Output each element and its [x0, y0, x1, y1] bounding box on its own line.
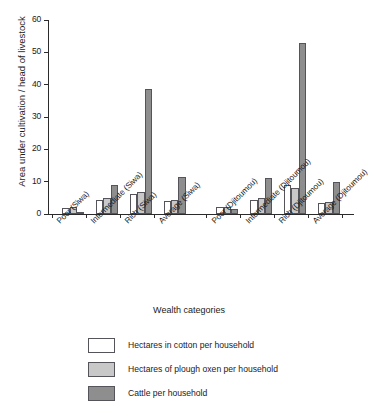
bar-chart: 0102030405060 Poor (Siwa)Intermediate (S… [0, 0, 378, 418]
x-tick-mark [206, 214, 207, 218]
x-tick-mark [86, 214, 87, 218]
y-tick-label: 40 [32, 79, 41, 90]
legend-item-cotton: Hectares in cotton per household [88, 333, 348, 357]
y-tick-label: 20 [32, 143, 41, 154]
y-axis-title: Area under cultivation / head of livesto… [16, 7, 27, 197]
x-tick-mark [120, 214, 121, 218]
x-tick-mark [342, 214, 343, 218]
legend-swatch-cotton-icon [88, 338, 115, 353]
x-tick-mark [240, 214, 241, 218]
chart-legend: Hectares in cotton per household Hectare… [88, 333, 348, 405]
x-tick-mark [52, 214, 53, 218]
legend-label-cattle: Cattle per household [128, 388, 207, 398]
y-tick-label: 50 [32, 46, 41, 57]
legend-item-oxen: Hectares of plough oxen per household [88, 357, 348, 381]
y-tick-label: 60 [32, 14, 41, 25]
legend-item-cattle: Cattle per household [88, 381, 348, 405]
bar-cattle [231, 209, 238, 214]
y-tick-label: 10 [32, 176, 41, 187]
x-axis-title: Wealth categories [0, 305, 378, 315]
bar-cattle [299, 43, 306, 214]
legend-swatch-cattle-icon [88, 386, 115, 401]
bar-cattle [77, 212, 84, 214]
y-tick-label: 30 [32, 111, 41, 122]
x-tick-mark [274, 214, 275, 218]
x-tick-mark [154, 214, 155, 218]
legend-swatch-oxen-icon [88, 362, 115, 377]
legend-label-oxen: Hectares of plough oxen per household [128, 364, 278, 374]
x-tick-mark [308, 214, 309, 218]
legend-label-cotton: Hectares in cotton per household [128, 340, 254, 350]
y-tick-label: 0 [36, 208, 41, 219]
